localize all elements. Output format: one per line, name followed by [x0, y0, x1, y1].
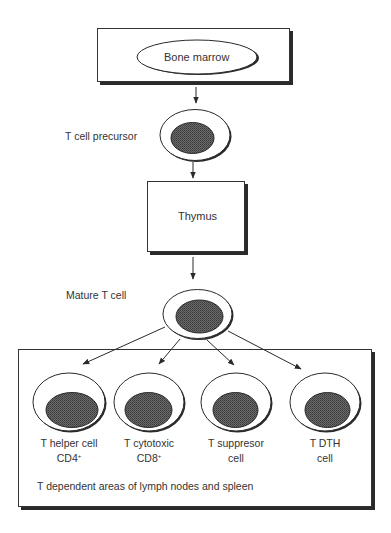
t-cytotoxic-line2: CD8+	[109, 450, 189, 465]
t-suppressor-line2: cell	[196, 450, 276, 465]
mature-t-cell-label: Mature T cell	[66, 289, 126, 302]
t-dth-line1: T DTH	[285, 437, 365, 450]
t-dth-line2: cell	[285, 450, 365, 465]
t-cell-precursor-label: T cell precursor	[65, 130, 137, 143]
t-cytotoxic-line1: T cytotoxic	[109, 437, 189, 450]
t-helper-label: T helper cell CD4+	[29, 437, 109, 465]
t-cell-precursor-cell	[160, 110, 232, 163]
t-helper-line2: CD4+	[29, 450, 109, 465]
t-suppressor-line1: T suppresor	[196, 437, 276, 450]
region-caption: T dependent areas of lymph nodes and spl…	[37, 480, 253, 493]
t-cytotoxic-label: T cytotoxic CD8+	[109, 437, 189, 465]
mature-t-cell	[163, 290, 234, 341]
thymus-label: Thymus	[178, 210, 217, 223]
bone-marrow-label: Bone marrow	[164, 51, 229, 64]
nucleus-icon	[176, 300, 223, 333]
t-helper-line1: T helper cell	[29, 437, 109, 450]
t-suppressor-label: T suppresor cell	[196, 437, 276, 465]
t-dth-label: T DTH cell	[285, 437, 365, 465]
nucleus-icon	[171, 123, 214, 154]
